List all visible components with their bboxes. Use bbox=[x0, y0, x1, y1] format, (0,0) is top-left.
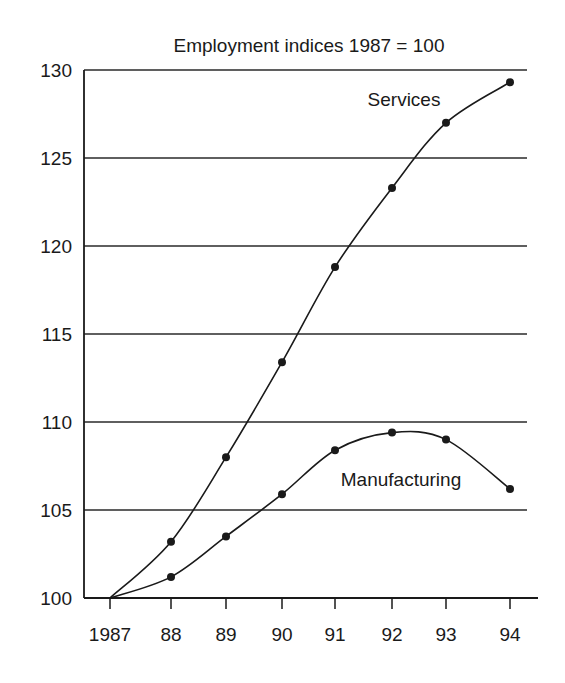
data-point-marker bbox=[506, 78, 514, 86]
data-point-marker bbox=[167, 573, 175, 581]
x-axis: 198788899091929394 bbox=[84, 70, 538, 645]
data-point-marker bbox=[278, 358, 286, 366]
x-tick-label: 90 bbox=[271, 624, 292, 645]
data-point-marker bbox=[442, 436, 450, 444]
x-tick-label: 1987 bbox=[89, 624, 131, 645]
y-tick-label: 125 bbox=[40, 148, 72, 169]
y-tick-label: 120 bbox=[40, 236, 72, 257]
data-point-marker bbox=[331, 446, 339, 454]
data-point-marker bbox=[167, 538, 175, 546]
series-lines bbox=[110, 78, 514, 598]
y-tick-label: 115 bbox=[42, 324, 72, 345]
chart-title: Employment indices 1987 = 100 bbox=[174, 35, 445, 56]
y-tick-label: 105 bbox=[40, 500, 72, 521]
y-tick-label: 110 bbox=[42, 412, 72, 433]
x-tick-label: 92 bbox=[381, 624, 402, 645]
series-label-services: Services bbox=[368, 89, 441, 110]
data-point-marker bbox=[388, 184, 396, 192]
data-point-marker bbox=[278, 490, 286, 498]
y-tick-label: 130 bbox=[40, 60, 72, 81]
series-manufacturing bbox=[110, 429, 514, 598]
x-tick-label: 94 bbox=[499, 624, 521, 645]
x-tick-label: 89 bbox=[215, 624, 236, 645]
gridlines bbox=[84, 70, 527, 510]
employment-chart: Employment indices 1987 = 100 1001051101… bbox=[0, 0, 565, 683]
y-axis-tick-labels: 100105110115120125130 bbox=[40, 60, 72, 609]
series-line bbox=[110, 82, 510, 598]
data-point-marker bbox=[222, 453, 230, 461]
data-point-marker bbox=[222, 532, 230, 540]
data-point-marker bbox=[331, 263, 339, 271]
y-tick-label: 100 bbox=[40, 588, 72, 609]
x-tick-label: 93 bbox=[435, 624, 456, 645]
series-label-manufacturing: Manufacturing bbox=[341, 469, 461, 490]
data-point-marker bbox=[442, 119, 450, 127]
x-tick-label: 91 bbox=[324, 624, 345, 645]
series-services bbox=[110, 78, 514, 598]
x-tick-label: 88 bbox=[160, 624, 181, 645]
data-point-marker bbox=[506, 485, 514, 493]
data-point-marker bbox=[388, 429, 396, 437]
